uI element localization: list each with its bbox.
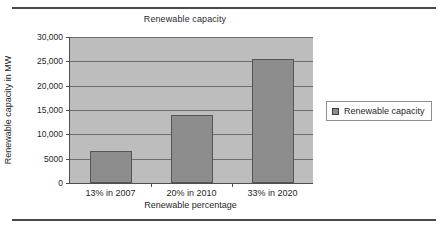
bar-1 xyxy=(90,151,132,183)
chart-title: Renewable capacity xyxy=(45,14,325,24)
x-axis-tick xyxy=(232,183,233,187)
y-axis-tick-label: 0 xyxy=(58,178,63,188)
y-axis-tick xyxy=(66,61,70,62)
bars-layer xyxy=(70,37,313,183)
chart-legend: Renewable capacity xyxy=(326,101,432,121)
bottom-divider-rule xyxy=(12,219,436,221)
y-axis-tick xyxy=(66,159,70,160)
x-axis-tick xyxy=(151,183,152,187)
y-axis-tick-label: 5000 xyxy=(44,154,63,164)
x-axis-tick-label: 20% in 2010 xyxy=(151,188,232,198)
y-axis-title: Renewable capacity in MW xyxy=(3,37,15,183)
chart-figure: Renewable capacity Renewable capacity in… xyxy=(0,0,448,229)
y-axis-tick-label: 30,000 xyxy=(37,32,63,42)
bar-3 xyxy=(252,59,294,183)
x-axis-tick-label: 13% in 2007 xyxy=(70,188,151,198)
x-axis-tick-label: 33% in 2020 xyxy=(232,188,313,198)
plot-area: 0500010,00015,00020,00025,00030,00013% i… xyxy=(69,37,313,184)
y-axis-tick xyxy=(66,183,70,184)
x-axis-title: Renewable percentage xyxy=(69,200,312,210)
top-divider-rule xyxy=(12,7,436,9)
legend-item-label: Renewable capacity xyxy=(344,106,425,116)
y-axis-tick xyxy=(66,86,70,87)
y-axis-tick xyxy=(66,37,70,38)
y-axis-tick-label: 20,000 xyxy=(37,81,63,91)
bar-2 xyxy=(171,115,213,183)
y-axis-tick xyxy=(66,110,70,111)
y-axis-tick-label: 25,000 xyxy=(37,56,63,66)
y-axis-tick-label: 15,000 xyxy=(37,105,63,115)
legend-swatch-square-icon xyxy=(332,108,339,115)
y-axis-tick xyxy=(66,134,70,135)
y-axis-tick-label: 10,000 xyxy=(37,129,63,139)
